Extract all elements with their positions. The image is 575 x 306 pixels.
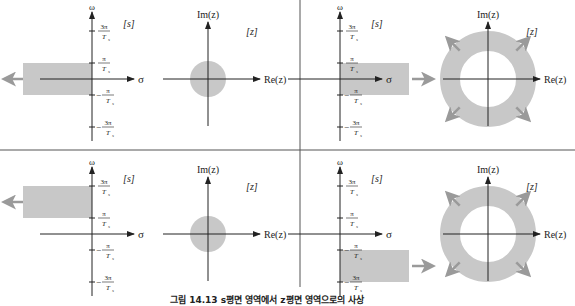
tick-sign: − (96, 122, 101, 132)
z-plane-tag: [z] (246, 181, 258, 192)
tick-denominator-sub: s (112, 133, 114, 138)
im-axis-label: Im(z) (197, 164, 219, 176)
tick-denominator: T (106, 129, 111, 137)
omega-label: ω (89, 2, 95, 12)
omega-label: ω (89, 157, 95, 167)
s-region-strip (23, 186, 92, 218)
im-axis-label: Im(z) (477, 9, 499, 21)
s-region-strip (340, 250, 409, 282)
re-axis-label: Re(z) (264, 229, 286, 241)
z-plane-tag: [z] (246, 26, 258, 37)
tick-denominator: T (350, 33, 355, 41)
tick-numerator: 3π (352, 274, 360, 282)
tick-denominator-sub: s (108, 192, 110, 197)
re-axis-label: Re(z) (544, 229, 566, 241)
sigma-label: σ (138, 73, 144, 85)
z-plane: Im(z)Re(z)[z] (163, 9, 286, 126)
tick-sign: − (96, 90, 101, 100)
tick-denominator-sub: s (108, 37, 110, 42)
tick-numerator: π (102, 55, 106, 63)
tick-numerator: 3π (100, 178, 108, 186)
tick-numerator: 3π (348, 178, 356, 186)
tick-numerator: π (102, 210, 106, 218)
z-plane: Im(z)Re(z)[z] (443, 9, 566, 126)
tick-denominator-sub: s (112, 288, 114, 293)
tick-denominator-sub: s (360, 256, 362, 261)
tick-numerator: π (354, 87, 358, 95)
tick-numerator: 3π (100, 23, 108, 31)
tick-denominator: T (350, 188, 355, 196)
tick-numerator: π (350, 55, 354, 63)
re-axis-label: Re(z) (264, 74, 286, 86)
sigma-label: σ (138, 228, 144, 240)
im-axis-label: Im(z) (197, 9, 219, 21)
s-plane: ωσ[s]3πTsπTs−πTs−3πTs (6, 2, 144, 141)
tick-denominator-sub: s (112, 256, 114, 261)
tick-numerator: π (354, 242, 358, 250)
tick-denominator-sub: s (356, 224, 358, 229)
tick-denominator: T (102, 65, 107, 73)
tick-denominator-sub: s (108, 69, 110, 74)
tick-denominator-sub: s (112, 101, 114, 106)
tick-denominator-sub: s (108, 224, 110, 229)
z-plane-tag: [z] (526, 181, 538, 192)
tick-denominator-sub: s (356, 192, 358, 197)
tick-denominator: T (350, 220, 355, 228)
z-plane: Im(z)Re(z)[z] (443, 164, 566, 281)
tick-denominator-sub: s (360, 101, 362, 106)
s-plane-tag: [s] (123, 173, 135, 184)
tick-denominator: T (354, 97, 359, 105)
tick-sign: − (96, 245, 101, 255)
s-to-z-mapping-figure: 그림 14.13 s평면 영역에서 z평면 영역으로의 사상 ωσ[s]3πTs… (0, 0, 575, 306)
tick-denominator: T (102, 220, 107, 228)
tick-numerator: 3π (348, 23, 356, 31)
tick-denominator: T (106, 97, 111, 105)
panel-bottom-left: ωσ[s]3πTsπTs−πTs−3πTsIm(z)Re(z)[z] (6, 157, 286, 296)
tick-denominator-sub: s (356, 69, 358, 74)
omega-label: ω (337, 2, 343, 12)
re-axis-label: Re(z) (544, 74, 566, 86)
sigma-label: σ (386, 228, 392, 240)
tick-denominator: T (102, 188, 107, 196)
tick-denominator-sub: s (356, 37, 358, 42)
tick-numerator: π (350, 210, 354, 218)
tick-numerator: 3π (352, 119, 360, 127)
figure-caption: 그림 14.13 s평면 영역에서 z평면 영역으로의 사상 (170, 294, 365, 305)
tick-sign: − (344, 122, 349, 132)
s-plane-tag: [s] (123, 18, 135, 29)
tick-numerator: π (106, 87, 110, 95)
tick-denominator-sub: s (360, 133, 362, 138)
s-plane: ωσ[s]3πTsπTs−πTs−3πTs (288, 2, 431, 141)
tick-sign: − (344, 90, 349, 100)
tick-numerator: π (106, 242, 110, 250)
tick-denominator: T (106, 284, 111, 292)
tick-sign: − (96, 277, 101, 287)
im-axis-label: Im(z) (477, 164, 499, 176)
tick-numerator: 3π (104, 119, 112, 127)
z-plane: Im(z)Re(z)[z] (163, 164, 286, 281)
panel-top-left: ωσ[s]3πTsπTs−πTs−3πTsIm(z)Re(z)[z] (6, 2, 286, 141)
s-plane-tag: [s] (371, 173, 383, 184)
sigma-label: σ (386, 73, 392, 85)
tick-denominator-sub: s (360, 288, 362, 293)
s-plane: ωσ[s]3πTsπTs−πTs−3πTs (6, 157, 144, 296)
tick-denominator: T (354, 284, 359, 292)
tick-denominator: T (102, 33, 107, 41)
tick-sign: − (344, 277, 349, 287)
tick-sign: − (344, 245, 349, 255)
z-plane-tag: [z] (526, 26, 538, 37)
tick-numerator: 3π (104, 274, 112, 282)
s-plane-tag: [s] (371, 18, 383, 29)
panel-top-right: ωσ[s]3πTsπTs−πTs−3πTsIm(z)Re(z)[z] (288, 2, 566, 141)
omega-label: ω (337, 157, 343, 167)
panel-bottom-right: ωσ[s]3πTsπTs−πTs−3πTsIm(z)Re(z)[z] (288, 157, 566, 296)
tick-denominator: T (354, 129, 359, 137)
tick-denominator: T (106, 252, 111, 260)
s-plane: ωσ[s]3πTsπTs−πTs−3πTs (288, 157, 431, 296)
